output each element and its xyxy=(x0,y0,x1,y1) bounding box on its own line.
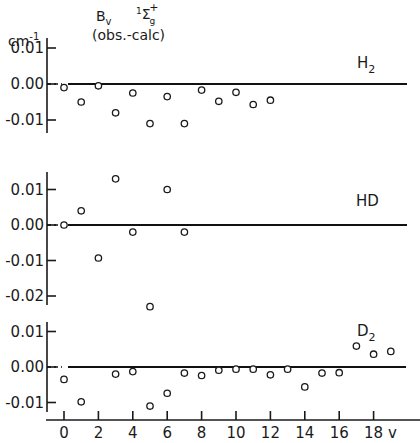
data-point xyxy=(233,366,239,372)
data-point xyxy=(78,399,84,405)
x-tick-label: 16 xyxy=(330,424,349,442)
data-point xyxy=(112,371,118,377)
panel-hd: 0.010.00-0.01-0.02HD xyxy=(5,172,407,310)
x-tick-label: 8 xyxy=(197,424,207,442)
data-point xyxy=(164,390,170,396)
x-tick-label: 2 xyxy=(94,424,104,442)
data-point xyxy=(181,229,187,235)
data-point xyxy=(61,376,67,382)
data-point xyxy=(198,372,204,378)
data-point xyxy=(267,97,273,103)
data-point xyxy=(147,120,153,126)
data-point xyxy=(130,368,136,374)
x-tick-label: 18 xyxy=(364,424,383,442)
y-tick-label: -0.01 xyxy=(5,394,44,412)
y-tick-label: 0.00 xyxy=(11,75,44,93)
y-tick-label: 0.01 xyxy=(11,39,44,57)
data-point xyxy=(112,176,118,182)
x-tick-label: 12 xyxy=(261,424,280,442)
subtitle-label: (obs.-calc) xyxy=(92,27,165,43)
panel-label: D2 xyxy=(357,322,376,344)
state-label: 1Σg+ xyxy=(136,1,159,26)
data-point xyxy=(61,84,67,90)
data-point xyxy=(95,255,101,261)
data-point xyxy=(250,101,256,107)
data-point xyxy=(95,83,101,89)
data-point xyxy=(78,208,84,214)
x-tick-label: 4 xyxy=(128,424,138,442)
data-point xyxy=(181,120,187,126)
x-tick-label: 14 xyxy=(295,424,314,442)
data-point xyxy=(198,87,204,93)
data-point xyxy=(233,89,239,95)
y-tick-label: -0.02 xyxy=(5,287,44,305)
data-point xyxy=(112,110,118,116)
data-point xyxy=(130,90,136,96)
y-tick-label: -0.01 xyxy=(5,252,44,270)
x-ticks: 024681012141618 xyxy=(59,411,383,442)
data-point xyxy=(181,370,187,376)
panel-label: H2 xyxy=(357,54,375,76)
data-point xyxy=(388,348,394,354)
y-tick-label: 0.01 xyxy=(11,181,44,199)
panel-label: HD xyxy=(356,192,379,210)
data-point xyxy=(216,367,222,373)
y-tick-label: -0.01 xyxy=(5,111,44,129)
x-tick-label: 6 xyxy=(162,424,172,442)
x-tick-label: 10 xyxy=(226,424,245,442)
y-tick-label: 0.01 xyxy=(11,323,44,341)
panel-d2: 0.010.00-0.01D2 xyxy=(5,322,406,412)
data-point xyxy=(267,372,273,378)
data-point xyxy=(302,384,308,390)
bv-residuals-chart: cm-1 Bv (obs.-calc) 1Σg+ 0.010.00-0.01H2… xyxy=(0,0,420,443)
quantity-label: Bv xyxy=(96,8,112,27)
data-point xyxy=(353,343,359,349)
data-point xyxy=(164,186,170,192)
data-point xyxy=(164,93,170,99)
data-point xyxy=(147,303,153,309)
x-tick-label: 0 xyxy=(59,424,69,442)
data-point xyxy=(61,222,67,228)
data-point xyxy=(147,403,153,409)
panel-h2: 0.010.00-0.01H2 xyxy=(5,38,407,133)
panels: 0.010.00-0.01H20.010.00-0.01-0.02HD0.010… xyxy=(5,38,407,412)
x-axis-label: v xyxy=(388,424,397,442)
data-point xyxy=(284,366,290,372)
data-point xyxy=(250,366,256,372)
y-tick-label: 0.00 xyxy=(11,358,44,376)
data-point xyxy=(319,370,325,376)
x-axis: 024681012141618 v xyxy=(46,411,420,442)
y-tick-label: 0.00 xyxy=(11,216,44,234)
data-point xyxy=(370,351,376,357)
data-point xyxy=(130,229,136,235)
data-point xyxy=(336,369,342,375)
data-point xyxy=(78,99,84,105)
data-point xyxy=(216,98,222,104)
